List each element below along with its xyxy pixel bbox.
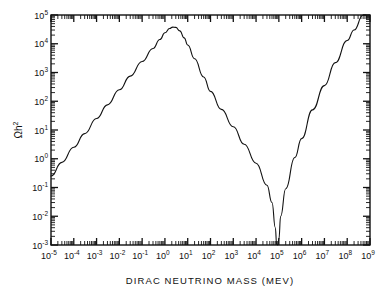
figure-container: 10-510-410-310-210-110010110210310410510…	[0, 0, 387, 293]
svg-text:DIRAC NEUTRINO MASS (MEV): DIRAC NEUTRINO MASS (MEV)	[126, 275, 294, 286]
x-axis-tick-labels: 10-510-410-310-210-110010110210310410510…	[41, 249, 375, 261]
x-axis-title: DIRAC NEUTRINO MASS (MEV)	[126, 275, 294, 286]
dirac-neutrino-mass-plot: 10-510-410-310-210-110010110210310410510…	[0, 0, 387, 293]
